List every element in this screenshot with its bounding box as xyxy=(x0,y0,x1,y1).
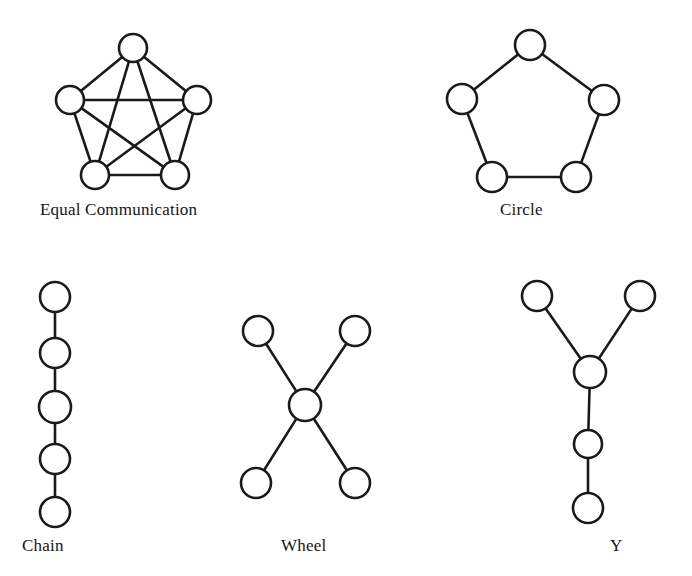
network-node xyxy=(81,161,109,189)
network-node xyxy=(573,493,603,523)
network-edge xyxy=(598,308,632,359)
network-node xyxy=(447,84,477,114)
network-node xyxy=(340,468,370,498)
network-edge xyxy=(143,56,187,91)
network-edge xyxy=(80,56,123,91)
network-edge xyxy=(545,308,581,360)
network-edge xyxy=(106,108,187,167)
network-node xyxy=(243,316,273,346)
network-edge xyxy=(473,54,519,90)
network-node xyxy=(515,30,545,60)
network-node xyxy=(477,162,507,192)
network-node xyxy=(574,430,602,458)
network-edge xyxy=(313,418,347,471)
diagram-label-chain: Chain xyxy=(22,536,64,556)
network-edge xyxy=(467,112,487,164)
diagram-chain xyxy=(39,282,71,527)
network-edge xyxy=(314,343,348,393)
network-edge xyxy=(264,418,297,471)
network-node xyxy=(40,444,70,474)
network-node xyxy=(40,497,70,527)
diagram-y xyxy=(522,281,655,523)
network-edge xyxy=(74,113,91,163)
network-node xyxy=(574,356,606,388)
network-diagram-figure xyxy=(0,0,692,576)
diagram-equal-communication xyxy=(56,34,211,189)
network-node xyxy=(40,338,70,368)
network-node xyxy=(522,281,552,311)
network-node xyxy=(561,162,591,192)
diagram-label-wheel: Wheel xyxy=(281,536,326,556)
network-node xyxy=(241,468,271,498)
diagram-label-equal-communication: Equal Communication xyxy=(40,200,197,220)
diagram-wheel xyxy=(241,316,370,498)
network-edge xyxy=(541,53,592,91)
diagram-circle xyxy=(447,30,619,192)
network-edge xyxy=(179,113,194,163)
network-edge xyxy=(81,108,165,168)
network-node xyxy=(589,85,619,115)
network-node xyxy=(183,86,211,114)
network-node xyxy=(39,391,71,423)
diagram-label-y: Y xyxy=(610,536,622,556)
network-node xyxy=(119,34,147,62)
network-node xyxy=(340,316,370,346)
network-node xyxy=(625,281,655,311)
network-node xyxy=(40,282,70,312)
network-edge xyxy=(588,387,589,431)
network-edge xyxy=(99,61,129,163)
network-node xyxy=(289,389,321,421)
network-node xyxy=(56,86,84,114)
diagram-label-circle: Circle xyxy=(500,200,543,220)
network-edge xyxy=(581,113,599,163)
network-node xyxy=(161,161,189,189)
network-edge xyxy=(266,343,297,392)
